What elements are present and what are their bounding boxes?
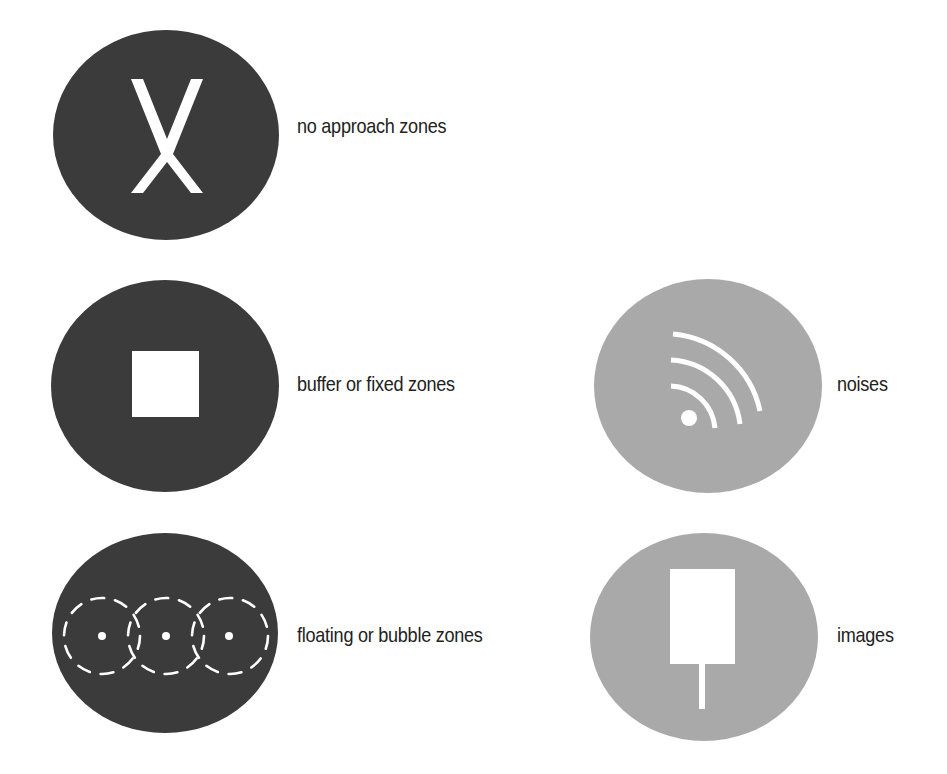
legend-label-buffer: buffer or fixed zones [297, 372, 455, 396]
square-icon [50, 279, 282, 495]
legend-label-images: images [837, 623, 894, 647]
sound-waves-icon [593, 278, 825, 496]
legend-label-noises: noises [837, 372, 888, 396]
zone-legend: no approach zones buffer or fixed zones … [0, 0, 947, 774]
legend-label-floating: floating or bubble zones [297, 623, 483, 647]
bubble-zones-icon [51, 532, 281, 736]
legend-label-no-approach: no approach zones [297, 114, 446, 138]
x-mark-icon [52, 29, 282, 243]
camera-sign-icon [589, 531, 821, 745]
